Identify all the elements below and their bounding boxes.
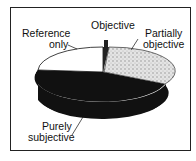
pie-chart: Objective Reference only Partially objec… — [0, 0, 196, 161]
objective-wedge-lift — [104, 40, 108, 49]
label-reference-line2: only — [49, 38, 69, 50]
leader-reference — [68, 45, 77, 49]
label-objective: Objective — [91, 19, 135, 31]
label-partial-line2: objective — [143, 38, 185, 50]
slice-reference-only — [38, 47, 103, 72]
label-subjective-line2: subjective — [28, 131, 75, 143]
